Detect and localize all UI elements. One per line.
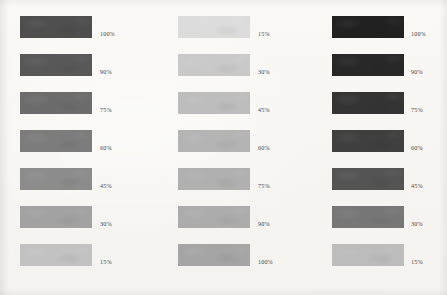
- tint-swatch: [332, 206, 404, 228]
- chart-sheet: 100%90%75%60%45%30%15%15%30%45%60%75%90%…: [0, 0, 447, 295]
- tint-row: 15%: [0, 244, 447, 266]
- tint-percent-label: 45%: [411, 183, 423, 189]
- tint-percent-label: 30%: [411, 221, 423, 227]
- tint-percent-label: 100%: [411, 31, 426, 37]
- tint-row: 45%: [0, 168, 447, 190]
- tint-swatch: [332, 130, 404, 152]
- tint-percent-label: 75%: [411, 107, 423, 113]
- tint-swatch: [332, 92, 404, 114]
- tint-swatch: [332, 54, 404, 76]
- tint-swatch: [332, 16, 404, 38]
- tint-swatch: [332, 244, 404, 266]
- tint-row: 75%: [0, 92, 447, 114]
- tint-percent-label: 60%: [411, 145, 423, 151]
- tint-row: 100%: [0, 16, 447, 38]
- tint-row: 60%: [0, 130, 447, 152]
- tint-percent-label: 15%: [411, 259, 423, 265]
- tint-percent-label: 90%: [411, 69, 423, 75]
- tint-swatch: [332, 168, 404, 190]
- tint-row: 90%: [0, 54, 447, 76]
- tint-row: 30%: [0, 206, 447, 228]
